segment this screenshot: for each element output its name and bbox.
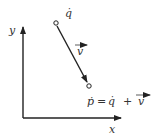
y-axis-label: y [8, 24, 16, 37]
equation: ṗ = q̇ + v [87, 95, 150, 108]
x-axis-label: x [109, 123, 116, 136]
point-p [87, 84, 91, 88]
equation-term2: v [138, 95, 145, 108]
point-q-label: q̇ [65, 7, 72, 20]
vector-label: v [75, 45, 87, 58]
point-q [54, 21, 58, 25]
vector-diagram: y x q̇ v ṗ = q̇ + v [0, 0, 164, 138]
svg-text:v: v [77, 45, 84, 58]
equation-lhs: ṗ [87, 95, 94, 108]
equation-eq: = [97, 95, 106, 108]
equation-term1: q̇ [108, 95, 115, 108]
equation-plus: + [123, 95, 132, 108]
